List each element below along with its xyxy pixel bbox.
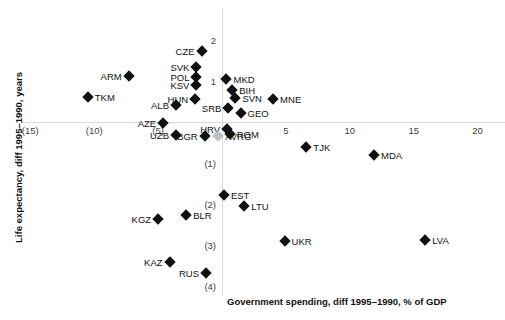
y-tick-label: (1) [194, 158, 216, 169]
data-point-marker [239, 200, 250, 211]
data-point-marker [223, 102, 234, 113]
data-point-label: BLR [193, 210, 211, 221]
data-point-label: MDA [381, 149, 402, 160]
y-tick-label: 2 [194, 35, 216, 46]
data-point-marker [196, 45, 207, 56]
data-point-label: CZE [176, 46, 195, 57]
data-point-marker [218, 189, 229, 200]
data-point-label: UKR [292, 235, 312, 246]
data-point-marker [301, 142, 312, 153]
data-point-label: SRB [202, 102, 222, 113]
data-point-label: AVRG [225, 131, 251, 142]
data-point-marker [152, 213, 163, 224]
data-point-label: KAZ [144, 257, 162, 268]
y-tick-label: (2) [194, 199, 216, 210]
data-point-marker [164, 257, 175, 268]
data-point-label: MNE [280, 94, 301, 105]
data-point-label: LTU [251, 201, 268, 212]
data-point-label: TKM [95, 91, 115, 102]
y-tick-label: (4) [194, 281, 216, 292]
data-point-label: GEO [248, 107, 269, 118]
y-tick-label: (3) [194, 240, 216, 251]
data-point-marker [267, 93, 278, 104]
x-axis-title: Government spending, diff 1995–1990, % o… [227, 296, 447, 307]
data-point-label: SVN [242, 93, 262, 104]
data-point-marker [420, 234, 431, 245]
data-point-label: KSV [170, 80, 189, 91]
data-point-marker [200, 267, 211, 278]
data-point-label: RUS [179, 267, 199, 278]
data-point-marker [279, 235, 290, 246]
data-point-marker [235, 107, 246, 118]
data-point-marker [368, 149, 379, 160]
x-tick-label: 10 [345, 125, 356, 136]
data-point-label: EST [231, 189, 249, 200]
x-tick-label: 20 [472, 125, 483, 136]
data-point-label: ARM [101, 71, 122, 82]
data-point-label: UZB [150, 130, 169, 141]
data-point-label: KGZ [132, 214, 152, 225]
data-point-label: LVA [432, 235, 449, 246]
data-point-marker [123, 70, 134, 81]
data-point-marker [82, 91, 93, 102]
data-point-label: MKD [233, 73, 254, 84]
data-point-label: BGR [177, 131, 198, 142]
data-point-label: ALB [151, 99, 169, 110]
x-tick-label: (15) [22, 125, 39, 136]
x-tick-label: 15 [408, 125, 419, 136]
x-axis-line [22, 122, 505, 123]
data-point-marker [181, 209, 192, 220]
scatter-chart: (15)(10)(5)510152021(1)(2)(3)(4) CZESVKA… [0, 0, 505, 320]
y-axis-line [222, 8, 223, 295]
x-tick-label: (10) [86, 125, 103, 136]
data-point-label: AZE [138, 117, 156, 128]
x-tick-label: 5 [283, 125, 288, 136]
data-point-marker [189, 93, 200, 104]
data-point-label: TJK [313, 142, 330, 153]
y-axis-title: Life expectancy, diff 1995–1990, years [13, 63, 24, 253]
